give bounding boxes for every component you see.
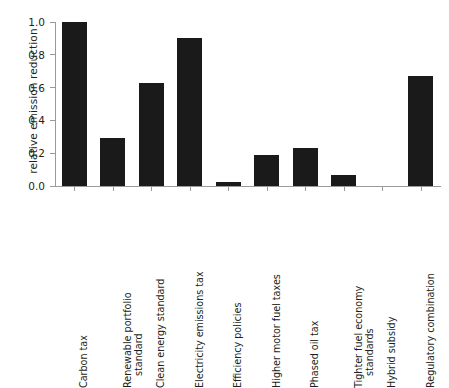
x-axis-label: Phased oil tax (310, 268, 326, 388)
y-tick-label: 0.2 (28, 147, 45, 159)
x-axis-label: Carbon tax (79, 268, 95, 388)
bar-slot (94, 22, 133, 186)
x-tick-mark (74, 187, 75, 191)
bar[interactable] (293, 148, 318, 186)
bar[interactable] (100, 138, 125, 186)
y-tick-0.0: 0.0 (0, 180, 55, 192)
bar-slot (55, 22, 94, 186)
bar-slot (286, 22, 325, 186)
bar-slot (209, 22, 248, 186)
plot-area (55, 22, 440, 186)
y-tick-label: 0.4 (28, 114, 45, 126)
bar-slot (248, 22, 287, 186)
x-tick-mark (382, 187, 383, 191)
bar-slot (132, 22, 171, 186)
y-tick-1.0: 1.0 (0, 16, 55, 28)
y-tick-0.4: 0.4 (0, 114, 55, 126)
x-axis-label-line: Higher motor fuel taxes (271, 274, 282, 388)
x-tick-mark (151, 187, 152, 191)
x-tick-mark (190, 187, 191, 191)
x-axis-label: Tighter fuel economystandards (354, 268, 370, 388)
y-tick-label: 0.8 (28, 49, 45, 61)
x-axis-label-line: Phased oil tax (309, 321, 320, 388)
bar[interactable] (408, 76, 433, 186)
x-axis-label-line: Efficiency policies (232, 303, 243, 388)
bar-slot (363, 22, 402, 186)
x-tick-mark (305, 187, 306, 191)
x-axis-label-line: Clean energy standard (155, 279, 166, 388)
x-tick-mark (267, 187, 268, 191)
y-axis-title: relative emission reduction (22, 6, 44, 196)
bar[interactable] (62, 22, 87, 186)
x-axis-label-line: Electricity emissions tax (194, 271, 205, 388)
x-axis-label-line: Renewable portfolio (122, 292, 133, 388)
bar[interactable] (177, 38, 202, 186)
bar[interactable] (139, 83, 164, 186)
bar-slot (171, 22, 210, 186)
x-tick-mark (113, 187, 114, 191)
y-tick-label: 0.6 (28, 82, 45, 94)
x-axis-label: Renewable portfoliostandard (123, 268, 139, 388)
x-tick-mark (344, 187, 345, 191)
x-axis-label: Higher motor fuel taxes (272, 268, 288, 388)
x-axis-label-line: standards (364, 268, 375, 388)
x-axis-label-line: Carbon tax (78, 335, 89, 388)
x-tick-mark (421, 187, 422, 191)
x-axis-label: Hybrid subsidy (387, 268, 403, 388)
x-axis-label-line: Regulatory combination (425, 273, 436, 388)
y-tick-label: 1.0 (28, 16, 45, 28)
y-tick-0.2: 0.2 (0, 147, 55, 159)
x-axis-label-line: Tighter fuel economy (353, 286, 364, 388)
x-tick-mark (228, 187, 229, 191)
x-axis-label-line: standard (133, 268, 144, 388)
y-tick-0.6: 0.6 (0, 82, 55, 94)
x-axis-label: Clean energy standard (156, 268, 172, 388)
x-axis-label: Electricity emissions tax (195, 268, 211, 388)
y-tick-label: 0.0 (28, 180, 45, 192)
bar[interactable] (331, 175, 356, 186)
bar[interactable] (216, 182, 241, 186)
bar-slot (325, 22, 364, 186)
y-tick-0.8: 0.8 (0, 49, 55, 61)
x-axis-label-line: Hybrid subsidy (386, 317, 397, 388)
bar[interactable] (254, 155, 279, 186)
bar-slot (402, 22, 441, 186)
x-axis-label: Regulatory combination (426, 268, 442, 388)
x-axis-label: Efficiency policies (233, 268, 249, 388)
